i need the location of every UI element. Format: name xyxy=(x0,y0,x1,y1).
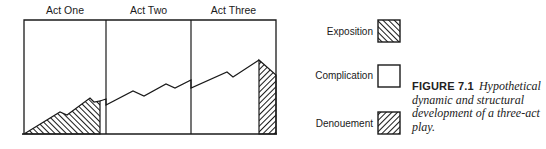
act-three-label: Act Three xyxy=(211,4,256,16)
legend-item-complication: Complication xyxy=(315,65,400,87)
denouement-area xyxy=(259,60,276,134)
act-one-label: Act One xyxy=(46,4,84,16)
figure-caption: FIGURE 7.1Hypothetical dynamic and struc… xyxy=(412,80,546,134)
complication-line xyxy=(100,60,259,105)
legend-label-denouement: Denouement xyxy=(316,118,373,129)
legend-label-complication: Complication xyxy=(315,70,373,81)
exposition-area xyxy=(24,98,100,134)
exposition-swatch-icon xyxy=(378,20,400,42)
complication-swatch-icon xyxy=(378,65,400,87)
legend-item-exposition: Exposition xyxy=(327,20,400,42)
legend-item-denouement: Denouement xyxy=(316,112,400,134)
figure-number: FIGURE 7.1 xyxy=(412,80,474,92)
legend-label-exposition: Exposition xyxy=(327,26,373,37)
denouement-swatch-icon xyxy=(378,112,400,134)
legend: Exposition Complication Denouement xyxy=(315,20,400,134)
act-two-label: Act Two xyxy=(130,4,167,16)
